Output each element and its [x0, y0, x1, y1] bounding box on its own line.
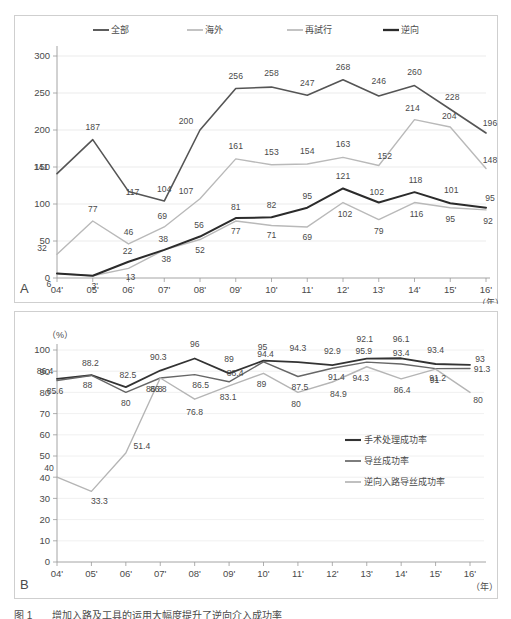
data-label: 32: [37, 243, 47, 253]
data-label: 102: [338, 209, 353, 219]
data-label: 94.3: [352, 373, 369, 383]
x-tick-label: 10': [265, 284, 278, 295]
data-label: 101: [444, 185, 459, 195]
data-label: 92: [483, 216, 493, 226]
data-label: 80: [121, 398, 131, 408]
legend-label: 手术处理成功率: [364, 434, 427, 445]
x-tick-label: 16': [464, 568, 477, 579]
data-label: 86.4: [37, 366, 54, 376]
chart-b-svg: 0102030405060708090100（%）04'05'06'07'08'…: [15, 312, 499, 600]
y-tick-label: 50: [39, 450, 50, 461]
figure-caption: 图 1 增加入路及工具的运用大幅度提升了逆向介入成功率: [14, 607, 498, 619]
data-label: 91.4: [328, 372, 345, 382]
data-label: 52: [195, 245, 205, 255]
data-label: 95: [302, 191, 312, 201]
x-axis-title: （年）: [477, 297, 500, 304]
y-tick-label: 20: [39, 514, 50, 525]
data-label: 69: [302, 232, 312, 242]
y-tick-label: 10: [39, 535, 50, 546]
data-label: 76.8: [186, 407, 203, 417]
data-label: 87.5: [292, 382, 309, 392]
data-label: 204: [442, 111, 457, 121]
y-tick-label: 200: [34, 124, 50, 135]
data-label: 51.4: [133, 441, 150, 451]
data-label: 258: [264, 68, 279, 78]
x-tick-label: 09': [223, 568, 236, 579]
data-label: 86.5: [192, 380, 209, 390]
x-tick-label: 06': [122, 284, 135, 295]
data-label: 40: [44, 463, 54, 473]
data-label: 118: [409, 175, 423, 185]
data-label: 46: [124, 227, 134, 237]
data-label: 33.3: [91, 496, 108, 506]
legend-label: 再試行: [305, 24, 332, 35]
data-label: 117: [126, 187, 140, 197]
data-label: 95: [445, 214, 455, 224]
data-label: 141: [34, 162, 49, 172]
x-tick-label: 07': [154, 568, 167, 579]
data-label: 3': [92, 281, 99, 291]
data-label: 85.6: [47, 386, 64, 396]
data-label: 102: [370, 187, 385, 197]
data-label: 6: [47, 279, 52, 289]
data-label: 79: [374, 226, 384, 236]
chart-panel-a: 05010015020025030004'05'06'07'08'09'10'1…: [14, 15, 498, 303]
data-label: 88.4: [227, 368, 244, 378]
legend-label: 海外: [205, 24, 223, 35]
data-label: 187: [86, 122, 101, 132]
y-tick-label: 40: [39, 472, 50, 483]
data-label: 93.4: [427, 345, 444, 355]
data-label: 163: [336, 139, 351, 149]
data-label: 268: [336, 62, 351, 72]
x-tick-label: 12': [337, 284, 350, 295]
y-tick-label: 100: [34, 344, 50, 355]
x-tick-label: 15': [444, 284, 457, 295]
data-label: 161: [229, 141, 244, 151]
chart-a-svg: 05010015020025030004'05'06'07'08'09'10'1…: [15, 16, 499, 304]
x-tick-label: 05': [85, 568, 98, 579]
data-label: 93.4: [393, 348, 410, 358]
data-label: 95: [485, 193, 495, 203]
data-label: 38: [158, 234, 168, 244]
x-axis-title: （年）: [471, 581, 498, 592]
data-label: 89: [257, 379, 267, 389]
data-label: 83.1: [220, 392, 237, 402]
x-tick-label: 14': [408, 284, 421, 295]
chart-b-canvas: 0102030405060708090100（%）04'05'06'07'08'…: [15, 312, 497, 598]
data-label: 228: [445, 92, 460, 102]
y-tick-label: 30: [39, 493, 50, 504]
data-label: 84.9: [330, 389, 347, 399]
data-label: 214: [405, 103, 420, 113]
data-label: 148: [483, 155, 498, 165]
x-tick-label: 10': [257, 568, 270, 579]
data-label: 256: [229, 71, 244, 81]
x-tick-label: 16': [480, 284, 493, 295]
x-tick-label: 15': [429, 568, 442, 579]
data-label: 77: [88, 204, 98, 214]
data-label: 81: [231, 202, 241, 212]
x-tick-label: 13': [361, 568, 374, 579]
x-tick-label: 04': [51, 284, 64, 295]
x-tick-label: 12': [326, 568, 339, 579]
data-label: 91.3: [474, 364, 491, 374]
data-label: 22: [123, 246, 133, 256]
data-label: 88: [83, 380, 93, 390]
data-label: 38: [161, 254, 171, 264]
data-label: 82: [267, 200, 277, 210]
data-label: 121: [336, 171, 351, 181]
x-tick-label: 06': [120, 568, 133, 579]
x-tick-label: 11': [301, 284, 313, 295]
data-label: 260: [407, 67, 422, 77]
data-label: 247: [300, 78, 315, 88]
data-label: 86.8: [146, 384, 163, 394]
x-tick-label: 08': [188, 568, 201, 579]
data-label: 92.1: [356, 334, 373, 344]
data-label: 154: [300, 146, 315, 156]
chart-a-canvas: 05010015020025030004'05'06'07'08'09'10'1…: [15, 16, 497, 302]
data-label: 152: [378, 151, 393, 161]
y-tick-label: 60: [39, 429, 50, 440]
data-label: 96: [190, 339, 200, 349]
data-label: 80: [473, 395, 483, 405]
y-tick-label: 0: [45, 556, 50, 567]
x-tick-label: 08': [194, 284, 207, 295]
